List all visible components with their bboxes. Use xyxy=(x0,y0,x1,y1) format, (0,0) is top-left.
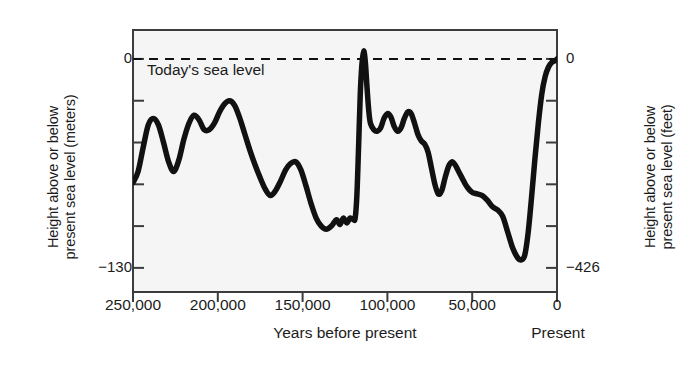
x-axis-present-label: Present xyxy=(508,324,608,342)
x-axis-tick-label-4: 50,000 xyxy=(448,296,495,314)
todays-sea-level-annotation: Today's sea level xyxy=(147,61,265,79)
x-axis-title: Years before present xyxy=(225,324,465,342)
x-axis-tick-label-5: 0 xyxy=(553,296,562,314)
x-axis-tick-label-1: 200,000 xyxy=(190,296,246,314)
sea-level-chart-figure: Height above or below present sea level … xyxy=(0,0,698,369)
x-axis-tick-label-3: 100,000 xyxy=(359,296,415,314)
x-axis-tick-label-0: 250,000 xyxy=(105,296,161,314)
x-axis-tick-label-2: 150,000 xyxy=(275,296,331,314)
